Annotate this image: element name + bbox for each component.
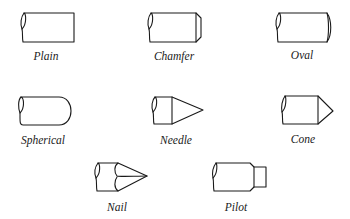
plain-label: Plain [34, 50, 59, 62]
pilot-label: Pilot [225, 201, 247, 213]
needle-end-shape [152, 97, 203, 124]
oval-label: Oval [291, 49, 313, 61]
chamfer-label: Chamfer [154, 50, 194, 62]
end-shapes-diagram [0, 0, 350, 219]
oval-end-shape [276, 13, 331, 42]
cone-label: Cone [291, 133, 315, 145]
spherical-end-shape [19, 97, 71, 125]
needle-label: Needle [160, 134, 192, 146]
plain-end-shape [21, 13, 74, 42]
nail-end-shape [95, 163, 147, 191]
nail-label: Nail [107, 201, 127, 213]
cone-end-shape [282, 96, 333, 124]
spherical-label: Spherical [21, 134, 65, 146]
pilot-end-shape [213, 163, 266, 191]
chamfer-end-shape [148, 13, 201, 42]
